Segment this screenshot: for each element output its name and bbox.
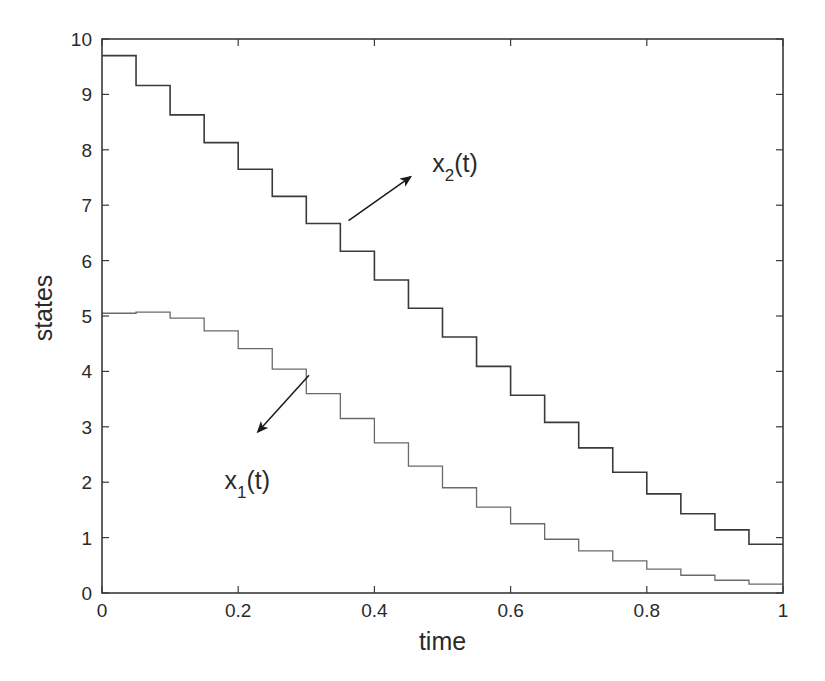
y-tick-label: 8 [81, 140, 92, 161]
x-tick-label: 0.8 [634, 600, 660, 621]
y-tick-label: 5 [81, 306, 92, 327]
y-tick-label: 4 [81, 361, 92, 382]
chart-canvas: 00.20.40.60.81012345678910 x2(t)x1(t) ti… [0, 0, 825, 681]
y-tick-label: 2 [81, 472, 92, 493]
step-chart: 00.20.40.60.81012345678910 x2(t)x1(t) ti… [0, 0, 825, 681]
series-layer [102, 56, 783, 585]
x-axis-label: time [419, 627, 466, 655]
y-tick-label: 0 [81, 583, 92, 604]
x-tick-label: 1 [778, 600, 789, 621]
y-tick-label: 1 [81, 528, 92, 549]
x-tick-label: 0 [97, 600, 108, 621]
annotation-label-x1: x1(t) [225, 466, 271, 502]
annotation-arrow-x1 [258, 375, 309, 432]
y-axis-label: states [29, 275, 57, 342]
y-tick-label: 3 [81, 417, 92, 438]
ticks-layer: 00.20.40.60.81012345678910 [71, 29, 788, 621]
y-tick-label: 9 [81, 84, 92, 105]
y-tick-label: 10 [71, 29, 92, 50]
series-line-x1t [102, 312, 783, 584]
x-tick-label: 0.4 [361, 600, 388, 621]
y-tick-label: 7 [81, 195, 92, 216]
x-tick-label: 0.6 [497, 600, 523, 621]
x-tick-label: 0.2 [225, 600, 251, 621]
annotation-layer: x2(t)x1(t) [225, 149, 478, 502]
annotation-label-x2: x2(t) [432, 149, 478, 185]
y-tick-label: 6 [81, 251, 92, 272]
annotation-arrow-x2 [349, 177, 411, 221]
